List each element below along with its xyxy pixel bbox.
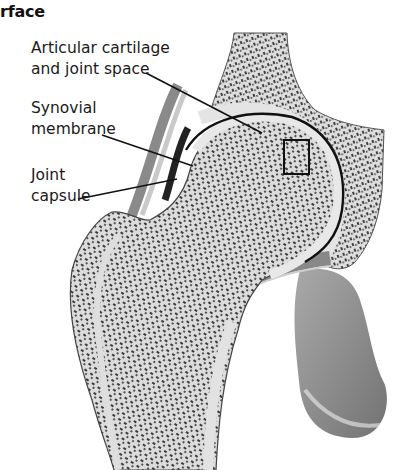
label-joint-capsule: Joint capsule: [31, 165, 91, 207]
label-line: membrane: [31, 119, 116, 140]
label-line: Synovial: [31, 98, 116, 119]
label-line: and joint space: [31, 59, 170, 80]
ischium: [295, 269, 387, 438]
label-line: Joint: [31, 165, 91, 186]
label-articular-cartilage: Articular cartilage and joint space: [31, 38, 170, 80]
section-heading: rface: [0, 2, 45, 21]
leader-capsule: [78, 179, 177, 199]
label-line: capsule: [31, 186, 91, 207]
label-line: Articular cartilage: [31, 38, 170, 59]
label-synovial-membrane: Synovial membrane: [31, 98, 116, 140]
